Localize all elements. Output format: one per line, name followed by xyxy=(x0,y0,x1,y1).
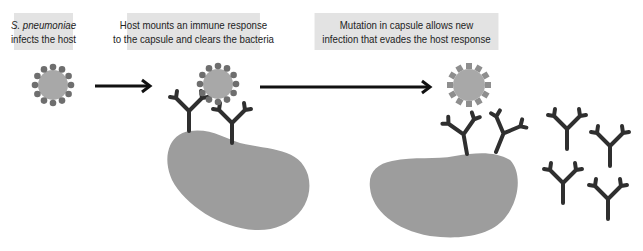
mutant-bacterium xyxy=(447,63,491,107)
free-antibody-1 xyxy=(548,109,586,149)
arrow-2 xyxy=(260,81,430,93)
free-antibody-2 xyxy=(591,126,629,166)
original-bacterium xyxy=(32,64,75,107)
free-antibody-4 xyxy=(589,179,627,219)
cell-antibody-1 xyxy=(441,111,485,157)
host-cell-2 xyxy=(370,153,518,237)
bound-antibody-1 xyxy=(170,91,208,131)
free-antibody-3 xyxy=(544,163,582,203)
cell-antibody-2 xyxy=(478,108,528,159)
diagram-canvas xyxy=(0,0,643,251)
arrow-1 xyxy=(95,80,150,92)
host-cell-1 xyxy=(167,130,309,230)
